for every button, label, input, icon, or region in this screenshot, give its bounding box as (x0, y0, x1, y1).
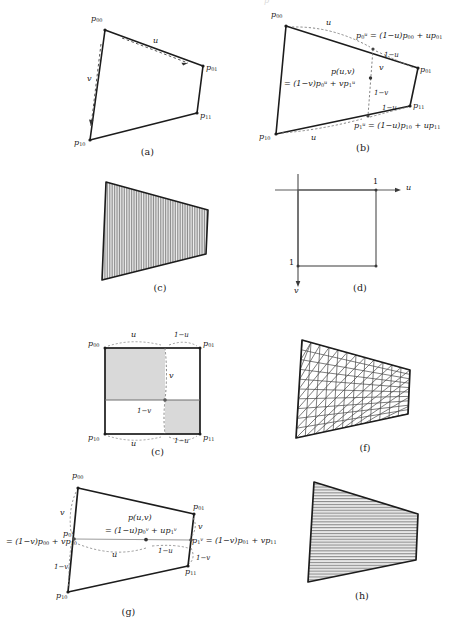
label-one-minus-v-right: 1−v (196, 555, 210, 562)
caption-d: (d) (270, 282, 450, 293)
label-u-axis: u (406, 184, 411, 192)
label-p01: p01 (420, 66, 431, 74)
label-p11: p11 (413, 102, 424, 110)
label-p01: p01 (206, 64, 217, 72)
label-p01: p01 (203, 340, 214, 348)
label-v-one: 1 (289, 259, 294, 267)
caption-b: (b) (258, 142, 468, 153)
label-v-left: v (60, 509, 65, 517)
label-p10: p10 (259, 133, 270, 141)
equation-p0u: p0u = (1−u)p00 + up01 (356, 32, 442, 40)
panel-f: (f) (280, 328, 450, 460)
panel-b: p00 p01 p11 p10 u u v 1−u 1−u 1−v p0u = … (258, 6, 468, 158)
label-v: v (379, 64, 384, 72)
label-one-minus-u-bottom: 1−u (382, 105, 397, 112)
label-u-top: u (131, 331, 136, 339)
label-u-one: 1 (373, 178, 378, 186)
label-p01: p01 (193, 503, 204, 511)
label-one-minus-u: 1−u (158, 548, 173, 555)
label-v: v (87, 75, 92, 83)
label-p10: p10 (56, 592, 67, 600)
equation-puv-line1: p(u,v) (331, 68, 355, 76)
label-p11: p11 (200, 112, 211, 120)
label-one-minus-u-top: 1−u (384, 52, 399, 59)
label-p11: p11 (203, 434, 214, 442)
equation-puv-line2: = (1−u)p0v + up1v (105, 527, 177, 535)
label-p00: p00 (271, 11, 282, 19)
label-u: u (112, 551, 117, 559)
equation-puv-line2: = (1−v)p0u + vp1u (284, 80, 355, 88)
label-one-minus-v: 1−v (137, 408, 151, 415)
panel-a: p00 p01 p11 p10 u v (a) (60, 8, 235, 158)
equation-p0v: = (1−v)p00 + vp10 (6, 538, 77, 546)
label-u: u (153, 37, 158, 45)
label-p00: p00 (72, 472, 83, 480)
label-one-minus-u-top: 1−u (174, 332, 189, 339)
label-one-minus-v-left: 1−v (54, 564, 68, 571)
label-v: v (169, 372, 174, 380)
label-u-bottom: u (311, 134, 316, 142)
caption-e: (c) (75, 446, 240, 457)
caption-g: (g) (6, 606, 251, 617)
panel-e: p00 p01 p10 p11 u u 1−u 1−u v 1−v (c) (75, 330, 240, 460)
figure-bilinear-interpolation: p p00 p01 p11 p10 u v (a) (0, 0, 473, 629)
label-v-right: v (198, 523, 203, 531)
panel-c: (c) (80, 170, 240, 300)
label-one-minus-v: 1−v (374, 90, 388, 97)
label-u-top: u (326, 19, 331, 27)
label-p00: p00 (91, 15, 102, 23)
caption-a: (a) (60, 146, 235, 157)
equation-p1u: p1u = (1−u)p10 + up11 (354, 122, 440, 130)
label-p11: p11 (185, 568, 196, 576)
equation-puv-line1: p(u,v) (128, 514, 152, 522)
label-one-minus-u-bottom: 1−u (174, 438, 189, 445)
cropped-glyph-artifact: p (264, 0, 269, 5)
caption-c: (c) (80, 282, 240, 293)
label-p00: p00 (88, 340, 99, 348)
panel-d: 1 u 1 v (d) (270, 170, 450, 300)
equation-p1v: p1v = (1−v)p01 + vp11 (192, 537, 277, 545)
label-p10: p10 (88, 434, 99, 442)
caption-h: (h) (282, 590, 442, 601)
panel-g: p00 p01 p11 p10 v 1−v v 1−v u 1−u p0v = … (6, 466, 251, 626)
panel-h: (h) (300, 472, 460, 612)
caption-f: (f) (280, 442, 450, 453)
